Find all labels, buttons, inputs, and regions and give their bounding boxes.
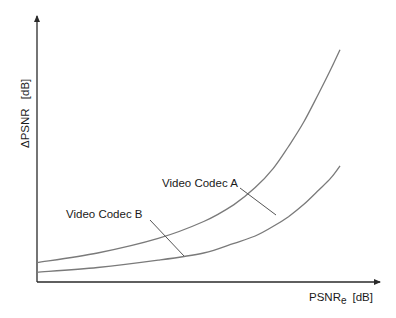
series-label-codec-b: Video Codec B xyxy=(66,208,143,220)
y-axis-label-unit: [dB] xyxy=(19,79,31,99)
x-axis-label-unit: [dB] xyxy=(353,291,373,303)
chart: Video Codec A Video Codec B ΔPSNR [dB] P… xyxy=(0,0,396,318)
x-axis-label-text: PSNR xyxy=(309,291,341,303)
series-line-video-codec-a xyxy=(37,50,340,263)
leader-line-codec-b xyxy=(150,220,184,256)
series-label-codec-a: Video Codec A xyxy=(162,177,238,189)
x-axis-label: PSNRe[dB] xyxy=(309,291,373,306)
leader-line-codec-a xyxy=(240,188,276,215)
svg-text:ΔPSNR [dB]: ΔPSNR [dB] xyxy=(19,79,31,148)
y-axis-label-text: ΔPSNR xyxy=(19,108,31,148)
y-axis-label: ΔPSNR [dB] xyxy=(19,79,31,148)
x-axis-label-subscript: e xyxy=(341,295,347,306)
